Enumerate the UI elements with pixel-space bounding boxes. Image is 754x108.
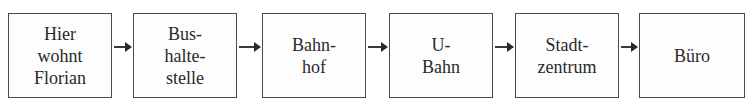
route-flow-diagram: Hier wohnt Florian Bus- halte- stelle Ba… [0,0,754,108]
step-box-city-center: Stadt- zentrum [515,13,619,98]
step-box-bus-stop: Bus- halte- stelle [133,13,237,98]
step-label-train-station: Bahn- hof [292,34,336,78]
step-label-office: Büro [674,45,710,67]
arrow-right-icon [495,46,513,48]
arrow-right-icon [368,46,387,48]
step-label-home: Hier wohnt Florian [34,23,86,89]
step-box-home: Hier wohnt Florian [8,13,112,98]
step-box-train-station: Bahn- hof [262,13,366,98]
arrow-right-icon [621,46,637,48]
step-label-city-center: Stadt- zentrum [538,34,597,78]
step-label-bus-stop: Bus- halte- stelle [165,23,206,89]
arrow-right-icon [114,46,131,48]
arrow-right-icon [239,46,260,48]
step-box-office: Büro [639,13,745,98]
step-box-subway: U- Bahn [389,13,493,98]
step-label-subway: U- Bahn [422,34,460,78]
